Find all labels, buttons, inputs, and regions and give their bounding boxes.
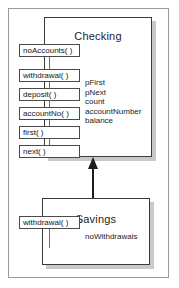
operation-next[interactable]: next( ) [19,145,80,158]
operation-no-accounts[interactable]: noAccounts( ) [19,44,80,57]
attribute-list-savings: noWithdrawals [85,232,137,242]
operation-first[interactable]: first( ) [19,126,80,139]
class-name-checking: Checking [45,30,151,42]
operation-withdrawal[interactable]: withdrawal( ) [19,69,80,82]
attribute-p-first: pFirst [85,78,141,88]
diagram-canvas: Checking pFirst pNext count accountNumbe… [0,0,179,288]
attribute-count: count [85,97,141,107]
attribute-account-number: accountNumber [85,107,141,117]
generalization-arrow-head [88,157,98,169]
generalization-arrow-shaft [92,168,94,199]
attribute-list-checking: pFirst pNext count accountNumber balance [85,78,141,126]
operation-withdrawal-savings[interactable]: withdrawal( ) [19,216,80,229]
operation-account-no[interactable]: accountNo( ) [19,107,80,120]
operation-deposit[interactable]: deposit( ) [19,88,80,101]
attribute-balance: balance [85,116,141,126]
operation-list-checking: withdrawal( ) deposit( ) accountNo( ) fi… [19,44,80,156]
operation-list-savings: withdrawal( ) [19,216,80,250]
attribute-p-next: pNext [85,88,141,98]
attribute-no-withdrawals: noWithdrawals [85,232,137,242]
